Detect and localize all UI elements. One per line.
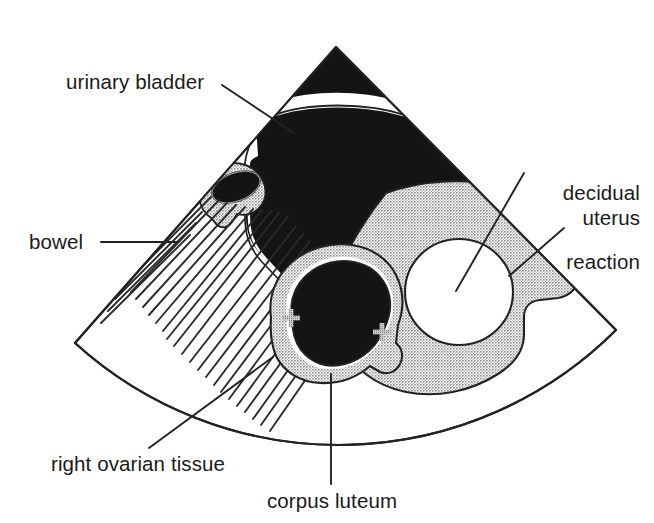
label-bowel: bowel bbox=[29, 230, 83, 253]
diagram-canvas: urinary bladder decidual reaction uterus… bbox=[0, 0, 654, 523]
decidual-cavity bbox=[405, 239, 513, 345]
label-decidual-reaction-line1: decidual bbox=[563, 181, 640, 204]
label-right-ovarian-tissue: right ovarian tissue bbox=[51, 452, 225, 475]
label-decidual-reaction-line2: reaction bbox=[563, 250, 640, 273]
label-corpus-luteum: corpus luteum bbox=[267, 489, 397, 512]
label-uterus: uterus bbox=[582, 206, 640, 229]
label-urinary-bladder: urinary bladder bbox=[66, 70, 204, 93]
corpus-luteum-complex bbox=[270, 244, 402, 383]
